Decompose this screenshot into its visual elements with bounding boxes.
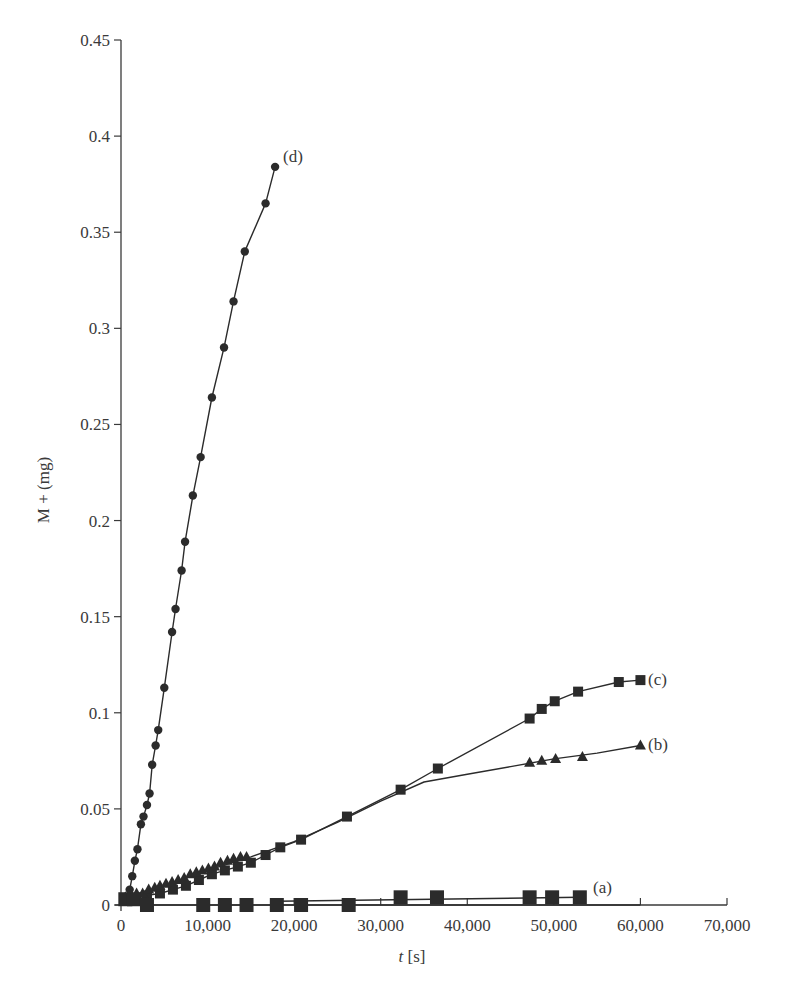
plot-lines <box>121 167 640 905</box>
series-d-marker <box>125 885 133 893</box>
series-d-marker <box>128 872 136 880</box>
x-tick-label: 70,000 <box>704 916 751 935</box>
series-c-marker <box>537 704 547 714</box>
series-d-marker <box>133 845 141 853</box>
series-d-marker <box>241 247 249 255</box>
y-tick-label: 0.25 <box>80 415 110 434</box>
series-d-marker <box>137 820 145 828</box>
series-d-marker <box>261 199 269 207</box>
y-tick-label: 0.35 <box>80 223 110 242</box>
series-d-marker <box>271 163 279 171</box>
y-tick-label: 0.3 <box>89 319 110 338</box>
series-a-marker <box>196 898 210 912</box>
series-d-marker <box>220 343 228 351</box>
series-a-marker <box>523 890 537 904</box>
y-tick-label: 0.05 <box>80 800 110 819</box>
x-tick-label: 10,000 <box>184 916 231 935</box>
x-tick-label: 20,000 <box>271 916 318 935</box>
y-axis: 00.050.10.150.20.250.30.350.40.45 <box>80 31 121 915</box>
series-d-marker <box>145 789 153 797</box>
series-a-marker <box>270 898 284 912</box>
series-label-a: (a) <box>593 878 612 897</box>
x-tick-label: 50,000 <box>530 916 577 935</box>
series-c-marker <box>635 675 645 685</box>
series-label-c: (c) <box>648 670 667 689</box>
series-a-marker <box>140 898 154 912</box>
series-a-marker <box>218 898 232 912</box>
series-c-marker <box>194 875 204 885</box>
x-tick-label: 0 <box>117 916 126 935</box>
series-d-marker <box>181 538 189 546</box>
series-b-marker <box>524 757 535 767</box>
series-d-marker <box>171 605 179 613</box>
series-d-marker <box>168 628 176 636</box>
series-c-marker <box>233 862 243 872</box>
x-axis-title: t [s] <box>399 947 426 966</box>
x-axis-title-unit: [s] <box>403 947 425 966</box>
series-c-marker <box>220 865 230 875</box>
series-d-marker <box>208 393 216 401</box>
series-c-marker <box>296 835 306 845</box>
series-d-line <box>130 167 275 890</box>
x-tick-label: 30,000 <box>357 916 404 935</box>
series-d-marker <box>139 812 147 820</box>
series-c-marker <box>525 714 535 724</box>
y-tick-label: 0.45 <box>80 31 110 50</box>
series-a-marker <box>430 890 444 904</box>
series-a-marker <box>545 890 559 904</box>
x-tick-label: 60,000 <box>617 916 664 935</box>
series-d-marker <box>177 566 185 574</box>
series-c-marker <box>275 842 285 852</box>
series-d-marker <box>143 801 151 809</box>
series-c-marker <box>550 696 560 706</box>
y-tick-label: 0.4 <box>89 127 111 146</box>
series-d-marker <box>196 453 204 461</box>
series-a-marker <box>573 890 587 904</box>
series-a-marker <box>394 890 408 904</box>
x-tick-label: 40,000 <box>444 916 491 935</box>
series-c-marker <box>396 785 406 795</box>
series-d-marker <box>148 760 156 768</box>
series-c-marker <box>573 687 583 697</box>
series-c-marker <box>614 677 624 687</box>
series-c-marker <box>433 764 443 774</box>
series-a-marker <box>240 898 254 912</box>
series-label-d: (d) <box>283 147 303 166</box>
chart: 00.050.10.150.20.250.30.350.40.45 010,00… <box>0 0 791 994</box>
y-tick-label: 0.15 <box>80 608 110 627</box>
y-tick-label: 0.1 <box>89 704 110 723</box>
series-d-marker <box>151 741 159 749</box>
series-d-marker <box>160 684 168 692</box>
y-tick-label: 0.2 <box>89 512 110 531</box>
series-d-marker <box>131 857 139 865</box>
series-c-marker <box>342 812 352 822</box>
y-tick-label: 0 <box>102 896 111 915</box>
series-c-marker <box>261 850 271 860</box>
series-d-marker <box>189 491 197 499</box>
series-d-marker <box>229 297 237 305</box>
series-a-marker <box>342 898 356 912</box>
y-axis-title: M + (mg) <box>34 457 53 523</box>
series-d-marker <box>154 726 162 734</box>
series-b-marker <box>635 739 646 749</box>
series-label-b: (b) <box>648 735 668 754</box>
series-a-marker <box>294 898 308 912</box>
series-a-marker <box>127 892 141 906</box>
